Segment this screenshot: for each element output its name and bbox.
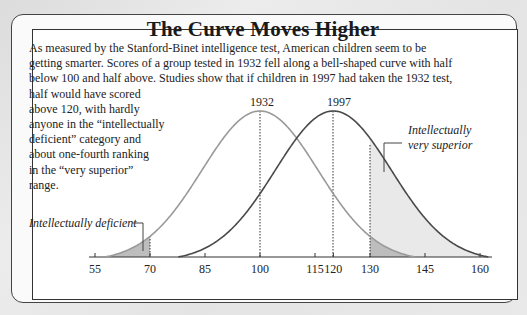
x-tick-label: 130 (361, 262, 379, 276)
very-superior-shade-1997 (370, 138, 488, 257)
x-tick-label: 70 (144, 262, 156, 276)
x-tick-label: 145 (416, 262, 434, 276)
label-deficient: Intellectually deficient (28, 216, 137, 230)
x-tick-label: 115 (306, 262, 324, 276)
label-1932: 1932 (250, 95, 274, 109)
x-tick-label: 100 (251, 262, 269, 276)
bell-curve-chart: 557085100115120130145160 1932 1997 Intel… (0, 0, 527, 315)
label-superior-line2: very superior (408, 138, 473, 152)
x-tick-label: 55 (89, 262, 101, 276)
x-tick-label: 85 (199, 262, 211, 276)
x-tick-label: 120 (324, 262, 342, 276)
x-tick-label: 160 (471, 262, 489, 276)
label-1997: 1997 (327, 95, 351, 109)
label-superior-line1: Intellectually (407, 123, 472, 137)
